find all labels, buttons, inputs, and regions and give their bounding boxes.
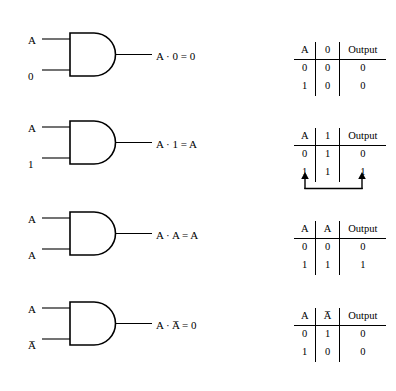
table-header-cell: A [294,221,316,239]
table-cell: 0 [316,60,339,79]
table-cell: 1 [339,257,386,275]
gate-output-expression-3: A · A = A [156,230,198,241]
table-row: 1 1 1 [294,257,386,275]
table-cell: 0 [294,146,316,165]
gate-output-expression-1: A · 0 = 0 [156,51,195,62]
and-gate-symbol-3 [0,187,270,273]
gate-input-top-2: A [28,123,36,134]
table-row: 1 0 0 [294,78,386,96]
table-header-cell: Output [339,221,386,239]
table-header-cell: Output [339,42,386,60]
table-row: 1 0 0 [294,344,386,362]
gate-input-top-1: A [28,35,36,46]
gate-input-top-4: A [28,304,36,315]
table-header-cell: Output [339,308,386,326]
table-header-row: A 0 Output [294,42,386,60]
table-cell: 1 [316,326,339,345]
table-header-cell: Output [339,128,386,146]
table-cell: 1 [294,344,316,362]
gate-input-bottom-1: 0 [28,71,34,82]
gate-output-expression-4: A · A̅ = 0 [156,320,196,331]
table-header-cell: 1 [316,128,339,146]
table-header-row: A A̅ Output [294,308,386,326]
gate-output-expression-2: A · 1 = A [156,139,197,150]
gate-row-4: A A̅ A · A̅ = 0 [0,277,270,363]
table-cell: 0 [339,344,386,362]
table-row: 0 0 0 [294,60,386,79]
table-header-row: A A Output [294,221,386,239]
and-gate-symbol-1 [0,8,270,94]
table-cell: 0 [294,326,316,345]
table-header-cell: A [294,42,316,60]
gate-row-2: A 1 A · 1 = A [0,96,270,182]
table-cell: 1 [294,257,316,275]
table-cell: 0 [339,239,386,258]
table-cell: 0 [294,239,316,258]
table-header-cell: A [294,308,316,326]
gate-row-3: A A A · A = A [0,187,270,273]
gate-input-top-3: A [28,214,36,225]
table-header-row: A 1 Output [294,128,386,146]
table-cell: 0 [339,60,386,79]
table-header-cell: 0 [316,42,339,60]
equivalence-arrows [294,172,386,194]
table-cell: 0 [339,78,386,96]
table-row: 0 1 0 [294,146,386,165]
truth-table-3: A A Output 0 0 0 1 1 1 [294,221,386,275]
gate-row-1: A 0 A · 0 = 0 [0,8,270,94]
table-header-cell: A [294,128,316,146]
table-cell: 0 [316,239,339,258]
and-gate-symbol-4 [0,277,270,363]
table-cell: 1 [316,257,339,275]
table-header-cell: A [316,221,339,239]
table-cell: 0 [294,60,316,79]
gate-input-bottom-2: 1 [28,159,34,170]
table-cell: 0 [316,78,339,96]
table-cell: 0 [316,344,339,362]
figure-canvas: A 0 A · 0 = 0 A 0 Output 0 0 0 1 0 0 [0,0,396,391]
and-gate-symbol-2 [0,96,270,182]
table-cell: 1 [316,146,339,165]
table-row: 0 0 0 [294,239,386,258]
gate-input-bottom-3: A [28,250,36,261]
truth-table-4: A A̅ Output 0 1 0 1 0 0 [294,308,386,362]
table-row: 0 1 0 [294,326,386,345]
table-cell: 0 [339,326,386,345]
gate-input-bottom-4: A̅ [28,340,36,351]
table-header-cell: A̅ [316,308,339,326]
table-cell: 0 [339,146,386,165]
truth-table-1: A 0 Output 0 0 0 1 0 0 [294,42,386,96]
table-cell: 1 [294,78,316,96]
